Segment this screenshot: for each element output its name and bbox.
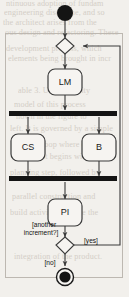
guard-label-no: [no] xyxy=(45,259,56,267)
figure-container: ntinuous adoption of fundam engineering … xyxy=(0,0,129,297)
activity-node-cs: CS xyxy=(11,134,45,161)
activity-diagram: LM CS B PI [another increment?] [yes] [n… xyxy=(0,0,129,297)
activity-node-b: B xyxy=(82,134,116,161)
initial-node xyxy=(57,5,73,21)
fork-bar xyxy=(9,111,117,116)
activity-node-lm: LM xyxy=(48,69,82,95)
activity-lm-label: LM xyxy=(59,77,72,87)
guard-label-question-line2: increment?] xyxy=(24,229,59,237)
final-node xyxy=(57,269,74,286)
merge-node xyxy=(56,38,74,54)
activity-cs-label: CS xyxy=(22,142,35,152)
guard-label-question-line1: [another xyxy=(32,221,57,229)
decision-node xyxy=(56,237,74,254)
activity-pi-label: PI xyxy=(61,207,70,217)
join-bar xyxy=(9,176,117,181)
final-node-core xyxy=(59,271,70,282)
guard-label-yes: [yes] xyxy=(84,237,98,245)
activity-b-label: B xyxy=(96,142,102,152)
